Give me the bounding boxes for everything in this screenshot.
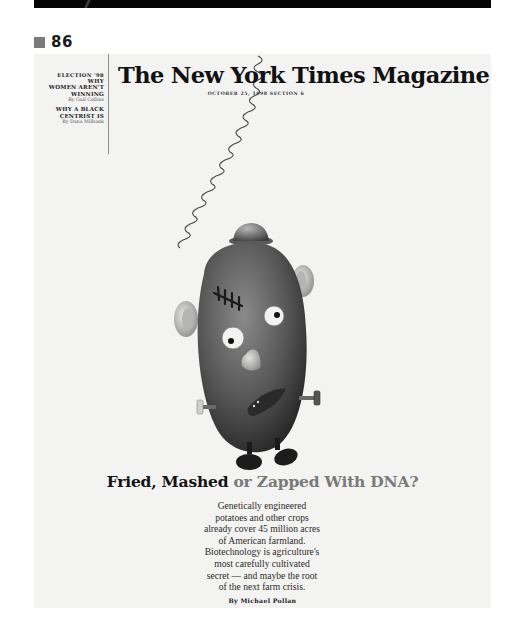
dek-line: of the next farm crisis. [162,581,362,593]
dateline: OCTOBER 25, 1998 SECTION 6 [186,91,326,96]
page-number: 86 [51,33,73,51]
dek-line: Biotechnology is agriculture's [162,546,362,558]
dek-line: Genetically engineered [162,500,362,512]
bar-streak [84,0,91,8]
magazine-cover: ELECTION '98 WHY WOMEN AREN'T WINNING By… [34,54,491,608]
cover-sidebar: ELECTION '98 WHY WOMEN AREN'T WINNING By… [34,54,109,154]
page-marker-square-icon [34,37,45,48]
dek-line: most carefully cultivated [162,558,362,570]
headline-part2: or Zapped With DNA? [233,472,418,491]
cover-byline: By Michael Pollan [34,597,491,604]
dek-line: already cover 45 million acres [162,523,362,535]
dek-line: secret — and maybe the root [162,570,362,582]
dek-line: of American farmland. [162,535,362,547]
sidebar-story2-byline: By Dana Milbank [34,119,104,125]
dek-line: potatoes and other crops [162,512,362,524]
page-number-label: 86 [34,33,73,51]
cover-headline: Fried, Mashed or Zapped With DNA? [34,472,491,491]
cover-dek: Genetically engineered potatoes and othe… [162,500,362,593]
masthead-title: The New York Times Magazine [118,62,408,88]
headline-part1: Fried, Mashed [107,472,234,491]
top-black-bar [34,0,491,8]
